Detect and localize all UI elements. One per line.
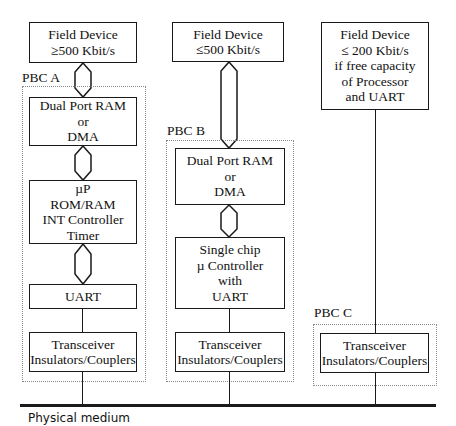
- field-device-c: Field Device ≤ 200 Kbit/s if free capaci…: [321, 22, 429, 110]
- uart-block-a: UART: [29, 284, 137, 309]
- block-line: Dual Port RAM: [187, 153, 273, 169]
- field-device-b-title: Field Device: [193, 27, 262, 43]
- bus-connector-a2: [74, 146, 92, 180]
- bus-connector-b1: [220, 62, 238, 148]
- block-line: Transceiver: [51, 337, 114, 353]
- field-device-c-note: if free capacity: [335, 58, 416, 74]
- pbc-c-label: PBC C: [314, 305, 352, 320]
- field-device-a: Field Device ≥500 Kbit/s: [29, 22, 137, 63]
- field-device-c-note: and UART: [346, 89, 405, 105]
- physical-medium-label: Physical medium: [28, 411, 130, 425]
- line-connector-b4: [229, 372, 230, 405]
- line-connector-a4: [82, 309, 83, 332]
- field-device-a-title: Field Device: [48, 27, 117, 43]
- block-line: Single chip: [199, 242, 260, 258]
- physical-medium-bus: [20, 404, 436, 407]
- dual-port-ram-a: Dual Port RAM or DMA: [29, 97, 137, 146]
- dual-port-ram-b: Dual Port RAM or DMA: [175, 148, 285, 205]
- bus-connector-a3: [74, 244, 92, 284]
- field-device-b: Field Device ≤500 Kbit/s: [172, 22, 284, 62]
- field-device-b-rate: ≤500 Kbit/s: [196, 42, 260, 58]
- block-line: UART: [65, 289, 101, 305]
- field-device-c-rate: ≤ 200 Kbit/s: [341, 43, 408, 59]
- transceiver-block-a: Transceiver Insulators/Couplers: [29, 332, 137, 372]
- line-connector-c1: [375, 110, 376, 333]
- block-line: Transceiver: [198, 337, 261, 353]
- transceiver-block-c: Transceiver Insulators/Couplers: [320, 333, 429, 373]
- transceiver-block-b: Transceiver Insulators/Couplers: [175, 332, 285, 372]
- block-line: Insulators/Couplers: [177, 352, 283, 368]
- block-line: ROM/RAM: [50, 197, 115, 213]
- pbc-a-label: PBC A: [22, 70, 60, 85]
- line-connector-c2: [375, 373, 376, 405]
- block-line: or: [224, 169, 235, 185]
- block-line: or: [77, 114, 88, 130]
- microprocessor-block-a: µP ROM/RAM INT Controller Timer: [29, 180, 137, 244]
- line-connector-b3: [229, 309, 230, 332]
- bus-connector-b2: [220, 205, 238, 237]
- block-line: Timer: [67, 228, 100, 244]
- field-device-c-title: Field Device: [340, 27, 409, 43]
- block-line: with: [218, 273, 242, 289]
- block-line: DMA: [67, 129, 99, 145]
- line-connector-a5: [82, 372, 83, 405]
- block-line: Insulators/Couplers: [30, 352, 136, 368]
- block-line: UART: [212, 289, 248, 305]
- block-line: Dual Port RAM: [40, 98, 126, 114]
- block-line: µ Controller: [197, 258, 264, 274]
- block-line: INT Controller: [42, 212, 123, 228]
- field-device-a-rate: ≥500 Kbit/s: [51, 43, 115, 59]
- field-device-c-note: of Processor: [341, 74, 408, 90]
- block-line: Insulators/Couplers: [322, 353, 428, 369]
- block-line: µP: [75, 181, 90, 197]
- block-line: Transceiver: [343, 338, 406, 354]
- single-chip-controller-b: Single chip µ Controller with UART: [175, 237, 285, 309]
- pbc-b-label: PBC B: [167, 123, 205, 138]
- block-line: DMA: [214, 184, 246, 200]
